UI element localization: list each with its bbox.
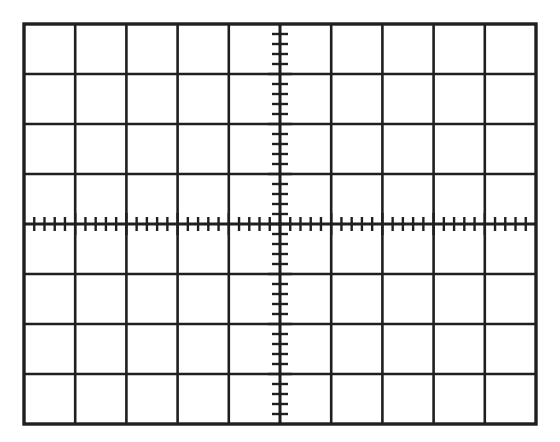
graticule-container (0, 0, 560, 442)
graticule-svg (0, 0, 560, 442)
screenshot-canvas (0, 0, 560, 442)
